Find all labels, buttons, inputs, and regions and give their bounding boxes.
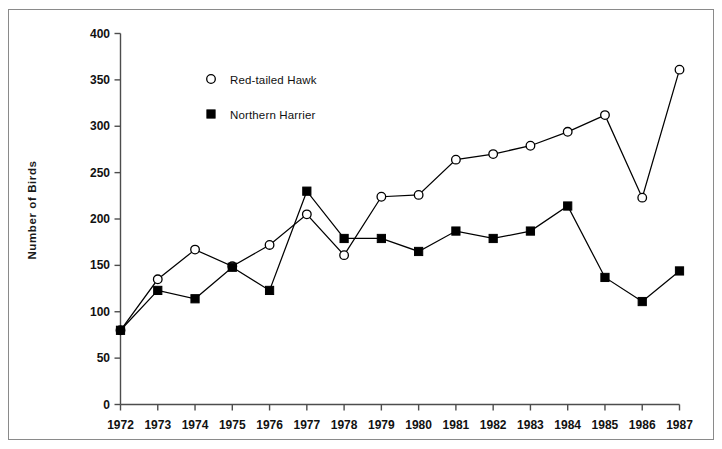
chart-figure: Number of Birds 050100150200250300350400… <box>0 0 722 449</box>
series-northern-harrier <box>121 191 680 330</box>
markers-northern-harrier <box>116 187 683 334</box>
axis-lines <box>115 34 680 411</box>
series-lines <box>116 65 684 334</box>
plot-area <box>0 0 722 449</box>
